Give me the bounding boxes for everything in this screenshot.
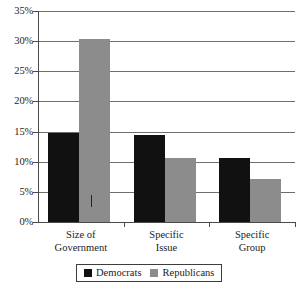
y-axis-tick-label: 15% bbox=[3, 127, 33, 137]
bar-democrats bbox=[134, 135, 165, 222]
x-axis-line bbox=[38, 222, 295, 223]
x-axis-category-label-line: Size of bbox=[36, 229, 126, 242]
y-axis-tick bbox=[33, 71, 38, 72]
y-axis-tick-label: 25% bbox=[3, 66, 33, 76]
y-axis-tick-label: 20% bbox=[3, 96, 33, 106]
x-axis-category-label: SpecificIssue bbox=[122, 229, 212, 254]
x-axis-category-label-line: Group bbox=[207, 242, 297, 255]
gridline bbox=[38, 71, 295, 72]
gridline bbox=[38, 101, 295, 102]
bar-republicans bbox=[250, 179, 281, 222]
bar-democrats bbox=[219, 158, 250, 222]
y-axis-tick-label: 30% bbox=[3, 36, 33, 46]
y-axis-tick-label: 10% bbox=[3, 157, 33, 167]
y-axis-tick bbox=[33, 162, 38, 163]
x-axis-category-label-line: Government bbox=[36, 242, 126, 255]
x-axis-tick bbox=[124, 222, 125, 227]
y-axis-tick bbox=[33, 11, 38, 12]
y-axis-line bbox=[38, 11, 39, 223]
bar-chart: 0%5%10%15%20%25%30%35% Size ofGovernment… bbox=[0, 0, 305, 294]
y-axis-tick-label: 35% bbox=[3, 6, 33, 16]
y-axis-tick bbox=[33, 222, 38, 223]
y-axis-tick bbox=[33, 101, 38, 102]
x-axis-category-label-line: Issue bbox=[122, 242, 212, 255]
x-axis-category-label-line: Specific bbox=[207, 229, 297, 242]
x-axis-category-label: SpecificGroup bbox=[207, 229, 297, 254]
legend-label-democrats: Democrats bbox=[96, 267, 141, 278]
y-axis-tick bbox=[33, 132, 38, 133]
scan-artifact-mark bbox=[91, 195, 93, 207]
x-axis-tick bbox=[209, 222, 210, 227]
y-axis-tick bbox=[33, 192, 38, 193]
legend-item-republicans: Republicans bbox=[150, 267, 214, 278]
x-axis-category-label-line: Specific bbox=[122, 229, 212, 242]
legend: Democrats Republicans bbox=[76, 264, 222, 282]
gridline bbox=[38, 41, 295, 42]
bar-republicans bbox=[165, 158, 196, 223]
legend-label-republicans: Republicans bbox=[162, 267, 214, 278]
gridline bbox=[38, 11, 295, 12]
legend-swatch-republicans-icon bbox=[150, 269, 158, 277]
y-axis-tick-label: 5% bbox=[3, 187, 33, 197]
bar-democrats bbox=[48, 133, 79, 222]
y-axis-tick-label: 0% bbox=[3, 217, 33, 227]
x-axis-category-label: Size ofGovernment bbox=[36, 229, 126, 254]
legend-item-democrats: Democrats bbox=[84, 267, 141, 278]
legend-swatch-democrats-icon bbox=[84, 269, 92, 277]
y-axis-labels: 0%5%10%15%20%25%30%35% bbox=[0, 0, 33, 240]
bar-republicans bbox=[79, 39, 110, 222]
y-axis-tick bbox=[33, 41, 38, 42]
plot-area bbox=[38, 11, 295, 222]
x-axis-tick bbox=[295, 222, 296, 227]
